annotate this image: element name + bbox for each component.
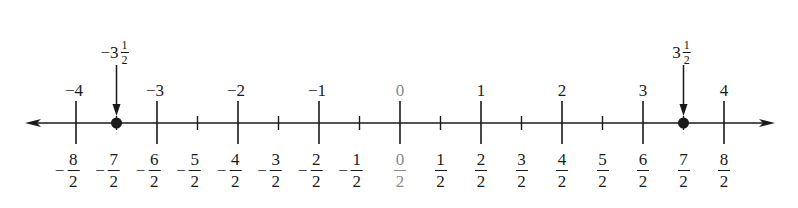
fraction-bar xyxy=(718,170,730,171)
fraction-bar xyxy=(394,170,406,171)
fraction-label: − 52 xyxy=(176,151,201,190)
numerator: 5 xyxy=(191,151,200,168)
numerator: 6 xyxy=(150,151,159,168)
fraction-bar xyxy=(516,170,528,171)
denominator: 2 xyxy=(639,173,648,190)
minus-sign: − xyxy=(136,161,146,181)
numerator: 1 xyxy=(122,39,128,51)
numerator: 3 xyxy=(272,151,281,168)
fraction-label: 42 xyxy=(556,151,568,190)
fraction-label: 62 xyxy=(637,151,649,190)
plotted-point xyxy=(678,118,689,129)
fraction-label: 32 xyxy=(516,151,528,190)
denominator: 2 xyxy=(110,173,119,190)
minus-sign: − xyxy=(257,161,267,181)
minus-sign: − xyxy=(176,161,186,181)
fraction-bar xyxy=(556,170,568,171)
integer-label: 2 xyxy=(558,82,567,99)
numerator: 4 xyxy=(558,151,567,168)
denominator: 2 xyxy=(150,173,159,190)
numerator: 8 xyxy=(720,151,729,168)
fraction-bar xyxy=(189,170,201,171)
numerator: 1 xyxy=(353,151,362,168)
numerator: 3 xyxy=(517,151,526,168)
mixed-whole: 3 xyxy=(672,43,681,63)
point-label: 3 12 xyxy=(672,39,691,66)
numerator: 2 xyxy=(312,151,321,168)
fraction-bar xyxy=(435,170,447,171)
denominator: 2 xyxy=(69,173,78,190)
denominator: 2 xyxy=(558,173,567,190)
minus-sign: − xyxy=(95,161,105,181)
plotted-point xyxy=(111,118,122,129)
denominator: 2 xyxy=(272,173,281,190)
integer-label: 4 xyxy=(720,82,729,99)
denominator: 2 xyxy=(720,173,729,190)
fraction-bar xyxy=(67,170,79,171)
fraction-label: 22 xyxy=(475,151,487,190)
integer-label: 3 xyxy=(639,82,648,99)
integer-label: 0 xyxy=(396,82,405,99)
fraction-label: 12 xyxy=(435,151,447,190)
fraction-label: − 62 xyxy=(136,151,161,190)
numerator: 1 xyxy=(684,39,690,51)
minus-sign: − xyxy=(55,161,65,181)
fraction-label: − 12 xyxy=(338,151,363,190)
denominator: 2 xyxy=(679,173,688,190)
integer-label: −3 xyxy=(146,82,164,99)
fraction-label: 72 xyxy=(678,151,690,190)
integer-label: 1 xyxy=(477,82,486,99)
fraction-bar xyxy=(148,170,160,171)
fraction-bar xyxy=(108,170,120,171)
fraction-bar xyxy=(229,170,241,171)
fraction-label: 02 xyxy=(394,151,406,190)
denominator: 2 xyxy=(191,173,200,190)
mixed-whole: −3 xyxy=(100,43,118,63)
fraction-bar xyxy=(310,170,322,171)
minus-sign: − xyxy=(217,161,227,181)
numerator: 7 xyxy=(110,151,119,168)
denominator: 2 xyxy=(598,173,607,190)
pointer-arrow-icon xyxy=(113,104,121,116)
numerator: 4 xyxy=(231,151,240,168)
denominator: 2 xyxy=(231,173,240,190)
minus-sign: − xyxy=(298,161,308,181)
fraction-label: − 42 xyxy=(217,151,242,190)
numerator: 1 xyxy=(436,151,445,168)
fraction-bar xyxy=(637,170,649,171)
numerator: 8 xyxy=(69,151,78,168)
numerator: 5 xyxy=(598,151,607,168)
fraction-bar xyxy=(270,170,282,171)
fraction-bar xyxy=(597,170,609,171)
fraction-bar xyxy=(678,170,690,171)
integer-label: −1 xyxy=(308,82,326,99)
point-label: −3 12 xyxy=(100,39,128,66)
integer-label: −2 xyxy=(227,82,245,99)
denominator: 2 xyxy=(396,173,405,190)
minus-sign: − xyxy=(338,161,348,181)
fraction-label: − 32 xyxy=(257,151,282,190)
denominator: 2 xyxy=(477,173,486,190)
denominator: 2 xyxy=(436,173,445,190)
fraction-bar xyxy=(475,170,487,171)
fraction-label: − 72 xyxy=(95,151,120,190)
number-line-diagram: −4−3−2−101234− 82− 72− 62− 52− 42− 32− 2… xyxy=(0,0,798,208)
fraction-label: 82 xyxy=(718,151,730,190)
fraction-label: 52 xyxy=(597,151,609,190)
denominator: 2 xyxy=(353,173,362,190)
fraction-label: − 82 xyxy=(55,151,80,190)
denominator: 2 xyxy=(517,173,526,190)
fraction-label: − 22 xyxy=(298,151,323,190)
denominator: 2 xyxy=(122,54,128,66)
numerator: 0 xyxy=(396,151,405,168)
denominator: 2 xyxy=(684,54,690,66)
integer-label: −4 xyxy=(65,82,83,99)
numerator: 7 xyxy=(679,151,688,168)
fraction-bar xyxy=(351,170,363,171)
pointer-arrow-icon xyxy=(680,104,688,116)
numerator: 6 xyxy=(639,151,648,168)
denominator: 2 xyxy=(312,173,321,190)
numerator: 2 xyxy=(477,151,486,168)
